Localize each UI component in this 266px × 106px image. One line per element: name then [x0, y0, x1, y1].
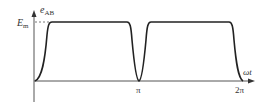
x-tick-pi: π — [136, 85, 141, 95]
y-axis-arrow-icon — [32, 10, 37, 17]
y-axis-label: eAB — [40, 4, 55, 17]
x-axis-label: ωt — [243, 67, 252, 77]
waveform-diagram: eAB Em ωt π 2π — [0, 0, 266, 106]
x-tick-2pi: 2π — [235, 85, 245, 95]
emf-curve — [35, 22, 243, 81]
em-level-label: Em — [16, 17, 29, 30]
x-axis-arrow-icon — [248, 79, 255, 84]
